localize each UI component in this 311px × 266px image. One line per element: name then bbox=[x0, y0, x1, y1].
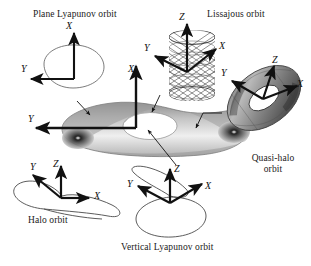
axis-label-plane-lyapunov-y: Y bbox=[21, 63, 27, 74]
halo-axes bbox=[33, 166, 89, 198]
orbit-families-figure: Plane Lyapunov orbit Lissajous orbit Qua… bbox=[0, 0, 311, 266]
axis-label-lissajous-x: X bbox=[219, 40, 225, 51]
axis-label-vertical-lyapunov-z: Z bbox=[174, 163, 180, 174]
caption-quasi-halo-line2: orbit bbox=[243, 164, 303, 175]
figure-canvas bbox=[0, 0, 311, 266]
axis-label-quasi-halo-y: Y bbox=[221, 67, 227, 78]
caption-lissajous: Lissajous orbit bbox=[207, 9, 265, 19]
caption-vertical-lyapunov: Vertical Lyapunov orbit bbox=[121, 242, 214, 252]
caption-quasi-halo-line1: Quasi-halo bbox=[243, 153, 303, 164]
axis-label-halo-x: X bbox=[94, 190, 100, 201]
caption-plane-lyapunov: Plane Lyapunov orbit bbox=[33, 9, 117, 19]
axis-label-lissajous-y: Y bbox=[144, 42, 150, 53]
axis-label-center-y: Y bbox=[28, 113, 34, 124]
center-manifold-surface bbox=[62, 102, 250, 156]
plane-lyapunov-axes bbox=[31, 33, 74, 79]
surface-focus-left bbox=[62, 127, 94, 149]
axis-label-halo-y: Y bbox=[30, 161, 36, 172]
axis-label-plane-lyapunov-x: X bbox=[66, 20, 72, 31]
vertical-lyapunov-axes bbox=[138, 169, 202, 203]
halo-orbit-curve bbox=[14, 181, 120, 219]
axis-label-lissajous-z: Z bbox=[179, 11, 185, 22]
axis-label-center-x: X bbox=[128, 63, 134, 74]
axis-label-quasi-halo-z: Z bbox=[272, 54, 278, 65]
axis-label-vertical-lyapunov-x: X bbox=[205, 180, 211, 191]
axis-label-vertical-lyapunov-y: Y bbox=[127, 178, 133, 189]
lissajous-orbit-mesh bbox=[167, 28, 217, 122]
caption-halo: Halo orbit bbox=[28, 215, 68, 225]
axis-label-quasi-halo-x: X bbox=[297, 78, 303, 89]
axis-label-halo-z: Z bbox=[53, 158, 59, 169]
